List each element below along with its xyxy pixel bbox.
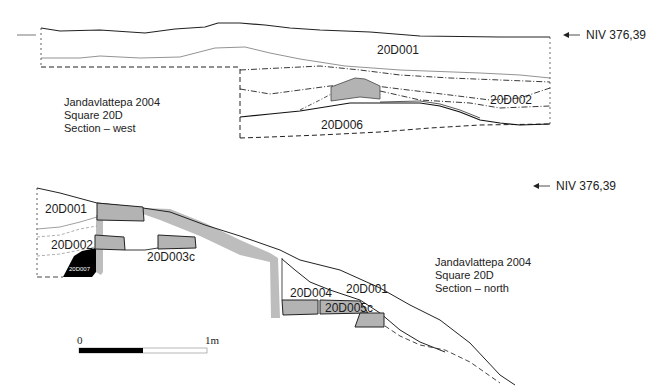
niv-arrow-icon: [533, 183, 550, 189]
west-section-caption: Jandavlattepa 2004 Square 20D Section – …: [64, 96, 160, 135]
scale-end-label: 1m: [205, 334, 219, 346]
caption-section: Section – west: [64, 122, 160, 135]
caption-site: Jandavlattepa 2004: [64, 96, 160, 109]
layer-label-20D007-north: 20D007: [69, 266, 90, 272]
layer-label-20D005c-north: 20D005c: [325, 302, 373, 314]
caption-square: Square 20D: [435, 269, 531, 282]
section-linework: [0, 0, 660, 392]
layer-label-20D002-north: 20D002: [51, 239, 93, 251]
scale-bar: [79, 348, 207, 353]
layer-label-20D001-north-left: 20D001: [45, 203, 87, 215]
caption-section: Section – north: [435, 282, 531, 295]
layer-label-20D001-north-right: 20D001: [346, 283, 388, 295]
scale-start-label: 0: [77, 334, 83, 346]
layer-label-20D001-west: 20D001: [377, 44, 419, 56]
north-section-caption: Jandavlattepa 2004 Square 20D Section – …: [435, 256, 531, 295]
layer-label-20D004-north: 20D004: [290, 287, 332, 299]
level-marker-west: NIV 376,39: [586, 28, 646, 42]
layer-label-20D002-west: 20D002: [490, 94, 532, 106]
layer-label-20D003c-north: 20D003c: [147, 251, 195, 263]
caption-square: Square 20D: [64, 109, 160, 122]
niv-arrow-icon: [563, 32, 580, 38]
caption-site: Jandavlattepa 2004: [435, 256, 531, 269]
level-marker-north: NIV 376,39: [556, 179, 616, 193]
layer-label-20D006-west: 20D006: [321, 119, 363, 131]
section-drawing-sheet: 20D001 20D002 20D006 Jandavlattepa 2004 …: [0, 0, 660, 392]
